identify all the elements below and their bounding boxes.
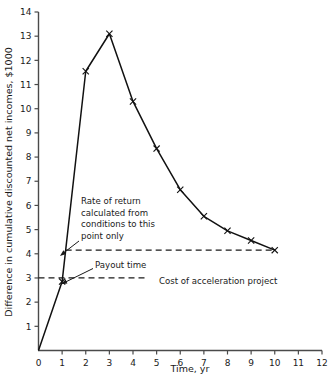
x-axis-title: Time, yr xyxy=(170,363,210,374)
x-tick-label: 12 xyxy=(316,358,327,368)
y-tick-label: 7 xyxy=(26,176,32,186)
y-tick-label: 4 xyxy=(26,249,32,259)
y-tick-label: 6 xyxy=(26,201,32,211)
x-tick-label: 11 xyxy=(293,358,304,368)
x-tick-label: 4 xyxy=(130,358,136,368)
y-tick-label: 14 xyxy=(20,7,32,17)
y-tick-label: 3 xyxy=(26,273,32,283)
x-tick-label: 8 xyxy=(225,358,231,368)
x-tick-label: 0 xyxy=(36,358,42,368)
chart-background xyxy=(0,0,336,379)
payout-time-note: Payout time xyxy=(95,260,146,270)
x-tick-label: 1 xyxy=(59,358,65,368)
x-tick-label: 3 xyxy=(107,358,113,368)
x-tick-label: 2 xyxy=(83,358,89,368)
line-chart: 1234567891011121314 0123456789101112 Rat… xyxy=(0,0,336,379)
y-tick-label: 5 xyxy=(26,225,32,235)
x-tick-label: 9 xyxy=(248,358,254,368)
rate-of-return-note-line-3: conditions to this xyxy=(81,219,156,229)
chart-container: 1234567891011121314 0123456789101112 Rat… xyxy=(0,0,336,379)
y-tick-label: 2 xyxy=(26,297,32,307)
rate-of-return-note-line-2: calculated from xyxy=(81,208,148,218)
y-axis-title: Difference in cumulative discounted net … xyxy=(3,47,14,316)
x-tick-label: 5 xyxy=(154,358,160,368)
rate-of-return-note-line-1: Rate of return xyxy=(81,196,141,206)
y-tick-label: 13 xyxy=(20,31,31,41)
cost-of-acceleration-label: Cost of acceleration project xyxy=(159,276,278,286)
x-tick-label: 10 xyxy=(269,358,281,368)
y-tick-label: 8 xyxy=(26,152,32,162)
y-tick-label: 9 xyxy=(26,128,32,138)
y-tick-label: 10 xyxy=(20,104,32,114)
rate-of-return-note-line-4: point only xyxy=(81,231,124,241)
y-tick-label: 12 xyxy=(20,56,31,66)
y-tick-label: 11 xyxy=(20,80,31,90)
y-tick-label: 1 xyxy=(26,322,32,332)
